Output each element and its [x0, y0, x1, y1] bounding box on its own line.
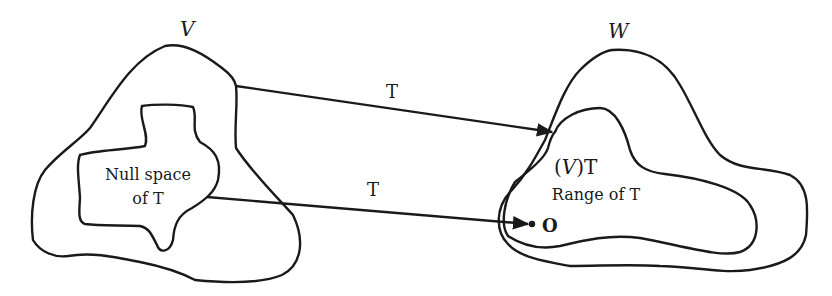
image-open-paren: ( — [554, 155, 562, 179]
zero-vector-dot — [529, 221, 535, 227]
arrow-lower-label: T — [367, 179, 379, 200]
codomain-space-label: W — [608, 19, 630, 43]
range-label: Range of T — [552, 185, 641, 204]
null-space-label-line1: Null space — [105, 165, 191, 184]
mapping-arrow-lower — [207, 197, 528, 224]
linear-map-diagram: V W Null space of T T T (V)T Range of T … — [0, 0, 832, 296]
domain-space-v-region — [32, 45, 300, 282]
arrow-upper-label: T — [386, 81, 398, 102]
codomain-space-w-region — [499, 50, 807, 271]
zero-vector-label: O — [542, 215, 558, 236]
null-space-label-line2: of T — [132, 189, 164, 208]
image-close: )T — [576, 155, 598, 179]
domain-space-label: V — [180, 17, 197, 41]
image-label: (V)T — [554, 155, 598, 179]
